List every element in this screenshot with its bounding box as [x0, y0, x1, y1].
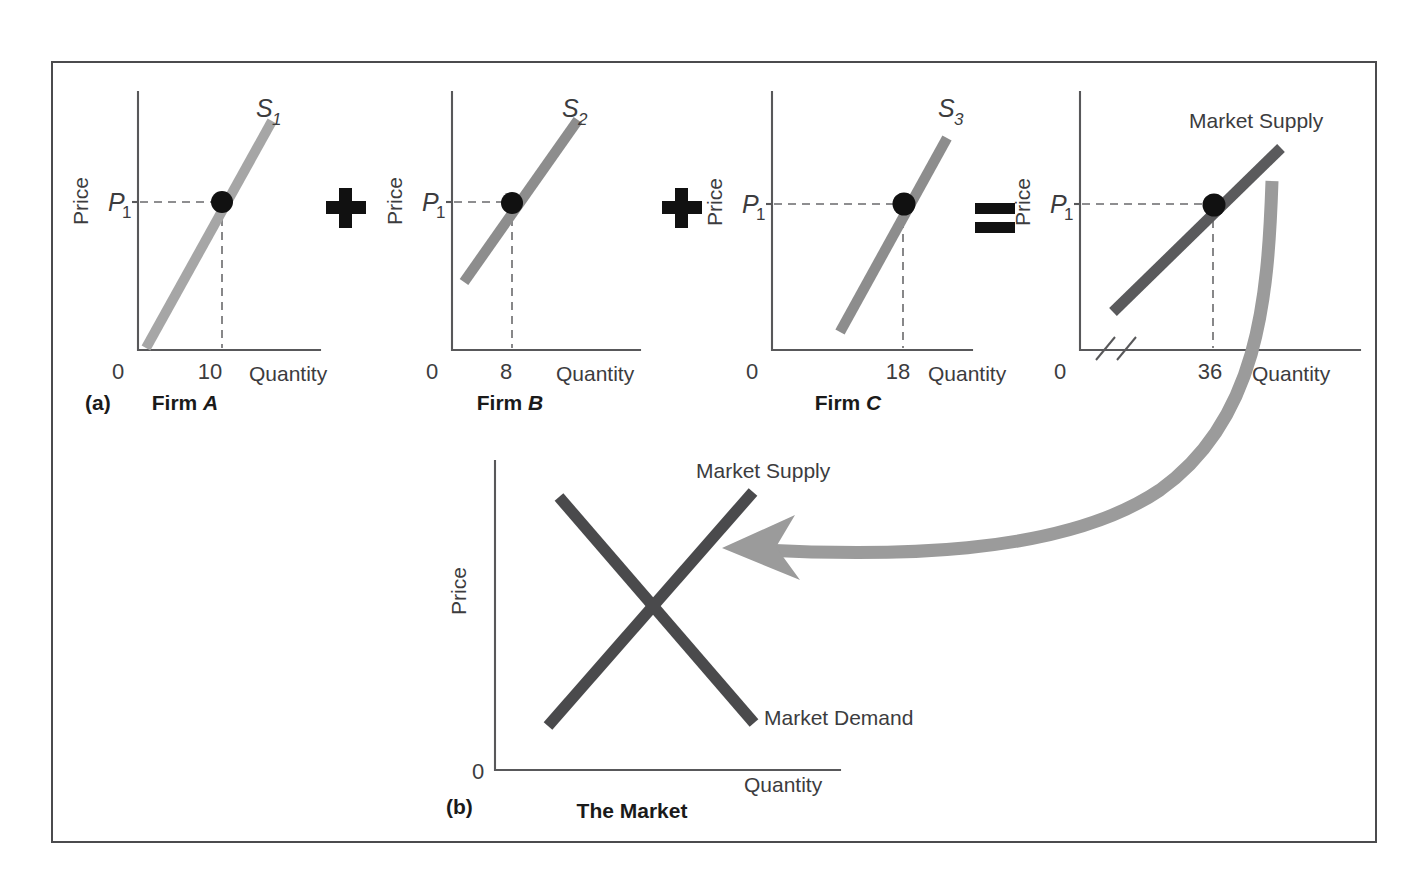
firm-b-price-subscript: 1	[436, 203, 445, 222]
operator-plus-2: +	[662, 188, 702, 228]
firm-a-price-subscript: 1	[122, 203, 131, 222]
market-supply-curve-label: Market Supply	[1189, 109, 1324, 132]
figure-root: S 1 Price P 1 0 10 Quantity (a) Firm A +…	[0, 0, 1427, 883]
firm-a-curve-subscript: 1	[272, 110, 281, 129]
the-market-quantity-axis-label: Quantity	[744, 773, 823, 796]
market-supply-quantity-tick-label: 36	[1198, 359, 1222, 384]
firm-b-title: Firm B	[477, 391, 544, 414]
firm-b-quantity-tick-label: 8	[500, 359, 512, 384]
firm-c-equilibrium-dot	[893, 193, 916, 216]
firm-c-supply-curve	[840, 138, 947, 332]
operator-plus-1: +	[326, 188, 366, 228]
market-supply-quantity-axis-label: Quantity	[1252, 362, 1331, 385]
firm-c-origin-label: 0	[746, 359, 758, 384]
panel-a-tag: (a)	[85, 391, 111, 414]
firm-b-curve-label: S	[562, 94, 579, 122]
market-supply-curve	[1113, 148, 1281, 312]
firm-a-supply-curve	[146, 121, 272, 348]
firm-b-curve-subscript: 2	[577, 110, 588, 129]
firm-a-equilibrium-dot	[211, 191, 233, 213]
firm-c-price-axis-label: Price	[703, 178, 726, 226]
firm-c-quantity-axis-label: Quantity	[928, 362, 1007, 385]
firm-b-origin-label: 0	[426, 359, 438, 384]
firm-a-quantity-tick-label: 10	[198, 359, 222, 384]
panel-the-market: Market Supply Market Demand Price 0 Quan…	[446, 459, 913, 822]
firm-a-title: Firm A	[152, 391, 219, 414]
market-supply-origin-label: 0	[1054, 359, 1066, 384]
panel-firm-c: S 3 Price P 1 0 18 Quantity Firm C	[703, 92, 1007, 414]
firm-c-curve-subscript: 3	[954, 110, 964, 129]
firm-c-quantity-tick-label: 18	[886, 359, 910, 384]
firm-a-price-axis-label: Price	[69, 177, 92, 225]
the-market-title: The Market	[577, 799, 688, 822]
axis-break-marks	[1096, 337, 1136, 360]
firm-a-curve-label: S	[256, 94, 273, 122]
panel-firm-b: S 2 Price P 1 0 8 Quantity Firm B	[383, 92, 640, 414]
market-supply-equilibrium-dot	[1203, 194, 1226, 217]
market-supply-price-axis-label: Price	[1011, 178, 1034, 226]
firm-a-quantity-axis-label: Quantity	[249, 362, 328, 385]
firm-c-title: Firm C	[815, 391, 882, 414]
the-market-price-axis-label: Price	[447, 567, 470, 615]
diagram-canvas: S 1 Price P 1 0 10 Quantity (a) Firm A +…	[0, 0, 1427, 883]
firm-c-price-subscript: 1	[756, 205, 765, 224]
market-supply-price-subscript: 1	[1064, 205, 1073, 224]
firm-b-equilibrium-dot	[501, 192, 523, 214]
operator-equals: =	[975, 203, 1015, 233]
firm-c-axes	[772, 92, 972, 350]
panel-b-tag: (b)	[446, 795, 473, 818]
firm-b-axes	[452, 92, 640, 350]
the-market-demand-label: Market Demand	[764, 706, 913, 729]
firm-a-origin-label: 0	[112, 359, 124, 384]
firm-b-price-axis-label: Price	[383, 177, 406, 225]
firm-b-quantity-axis-label: Quantity	[556, 362, 635, 385]
the-market-supply-label: Market Supply	[696, 459, 831, 482]
panel-firm-a: S 1 Price P 1 0 10 Quantity (a) Firm A	[69, 92, 328, 414]
firm-c-curve-label: S	[938, 94, 955, 122]
the-market-origin-label: 0	[472, 759, 484, 784]
panel-market-supply: Market Supply Price P 1 0 36 Quantity	[1011, 92, 1360, 385]
